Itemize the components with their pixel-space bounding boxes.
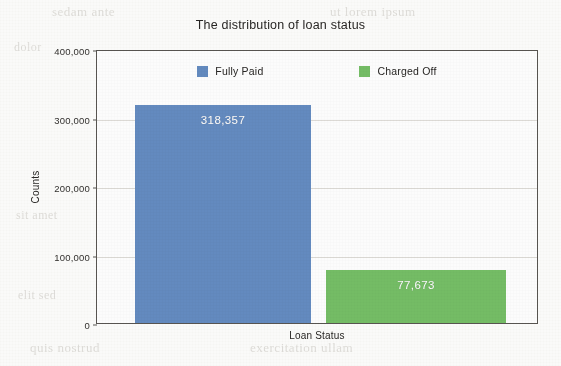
ytick-label-400000: 400,000 — [54, 46, 90, 57]
legend-label-fully-paid: Fully Paid — [215, 65, 263, 77]
tickmark-0 — [93, 325, 97, 326]
legend-item-fully-paid[interactable]: Fully Paid — [197, 65, 263, 77]
x-axis-title: Loan Status — [96, 330, 538, 341]
legend-swatch-icon-charged-off — [359, 66, 370, 77]
bar-fully-paid[interactable]: 318,357 — [135, 105, 311, 323]
y-axis-title: Counts — [30, 171, 41, 204]
chart-title: The distribution of loan status — [0, 18, 561, 32]
legend-swatch-icon-fully-paid — [197, 66, 208, 77]
bar-value-label-fully-paid: 318,357 — [135, 114, 311, 126]
plot-area: 400,000 300,000 200,000 100,000 0 Fully … — [96, 50, 538, 324]
tickmark-400000 — [93, 51, 97, 52]
ytick-label-300000: 300,000 — [54, 114, 90, 125]
bar-value-label-charged-off: 77,673 — [326, 279, 506, 291]
legend-item-charged-off[interactable]: Charged Off — [359, 65, 436, 77]
bar-charged-off[interactable]: 77,673 — [326, 270, 506, 323]
tickmark-200000 — [93, 188, 97, 189]
tickmark-100000 — [93, 256, 97, 257]
ytick-label-200000: 200,000 — [54, 183, 90, 194]
scanned-page-background: sedam ante ut lorem ipsum in the consequ… — [0, 0, 561, 366]
ytick-label-0: 0 — [85, 320, 90, 331]
ytick-label-100000: 100,000 — [54, 251, 90, 262]
tickmark-300000 — [93, 119, 97, 120]
bar-chart-figure: The distribution of loan status 400,000 … — [0, 0, 561, 366]
chart-legend: Fully Paid Charged Off — [97, 65, 537, 77]
legend-label-charged-off: Charged Off — [377, 65, 436, 77]
